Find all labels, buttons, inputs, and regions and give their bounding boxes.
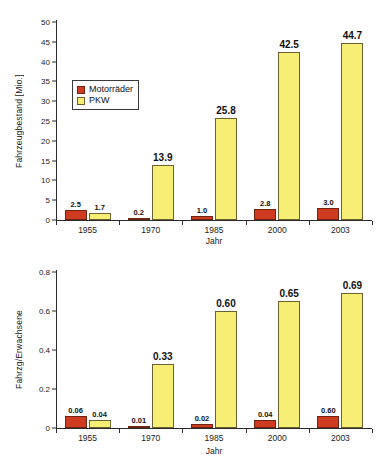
bar-pkw-1985 [215, 118, 237, 220]
bar-value-label: 0.04 [92, 410, 107, 419]
y-tick-label: 50 [22, 18, 50, 27]
y-tick-mark [52, 160, 56, 161]
plot-area-top [56, 22, 372, 220]
x-axis-line-bottom [56, 428, 372, 429]
y-tick-label: 25 [22, 117, 50, 126]
bar-value-label: 3.0 [323, 198, 333, 207]
legend-item-motorraeder: Motorräder [77, 84, 133, 95]
bar-pkw-1955 [89, 213, 111, 220]
bar-motorraeder-2003 [317, 416, 339, 428]
bar-motorraeder-2000 [254, 209, 276, 220]
bar-value-label: 0.04 [258, 410, 273, 419]
bar-value-label: 0.33 [153, 351, 172, 362]
bar-value-label: 0.02 [195, 414, 210, 423]
bar-pkw-2003 [341, 293, 363, 428]
y-tick-label: 35 [22, 77, 50, 86]
y-tick-label: 0.6 [22, 307, 50, 316]
chart-legend: Motorräder PKW [72, 80, 139, 110]
bar-pkw-1955 [89, 420, 111, 428]
y-tick-mark [52, 350, 56, 351]
bar-pkw-1970 [152, 165, 174, 220]
bar-value-label: 13.9 [153, 152, 172, 163]
x-tick-mark [372, 429, 373, 433]
y-tick-mark [52, 121, 56, 122]
x-tick-mark [182, 221, 183, 225]
bar-value-label: 0.06 [68, 406, 83, 415]
bar-value-label: 0.60 [216, 298, 235, 309]
bar-motorraeder-1955 [65, 210, 87, 220]
y-tick-label: 0.4 [22, 346, 50, 355]
bar-pkw-1970 [152, 364, 174, 428]
chart-page: Fahrzeugbestand [Mio.] Motorräder PKW Ja… [0, 0, 390, 472]
legend-item-pkw: PKW [77, 95, 133, 106]
x-tick-mark [56, 221, 57, 225]
bar-motorraeder-1970 [128, 426, 150, 428]
x-tick-label: 2000 [268, 225, 287, 235]
y-tick-mark [52, 61, 56, 62]
x-tick-mark [246, 429, 247, 433]
x-tick-mark [56, 429, 57, 433]
bar-motorraeder-1955 [65, 416, 87, 428]
y-tick-label: 0 [22, 424, 50, 433]
x-tick-mark [372, 221, 373, 225]
x-tick-mark [246, 221, 247, 225]
y-tick-mark [52, 200, 56, 201]
y-tick-label: 10 [22, 176, 50, 185]
bar-value-label: 1.0 [197, 206, 207, 215]
bar-motorraeder-1985 [191, 424, 213, 428]
x-tick-label: 1985 [205, 225, 224, 235]
plot-area-bottom [56, 272, 372, 428]
y-tick-mark [52, 81, 56, 82]
bar-value-label: 44.7 [343, 30, 362, 41]
y-tick-label: 20 [22, 136, 50, 145]
x-tick-label: 1955 [78, 225, 97, 235]
y-tick-label: 5 [22, 196, 50, 205]
bar-motorraeder-2003 [317, 208, 339, 220]
bar-value-label: 0.60 [321, 406, 336, 415]
legend-swatch-motorraeder [77, 86, 85, 94]
bar-value-label: 0.69 [343, 280, 362, 291]
y-tick-mark [52, 180, 56, 181]
bar-value-label: 0.01 [131, 416, 146, 425]
bar-value-label: 2.8 [260, 199, 270, 208]
legend-swatch-pkw [77, 97, 85, 105]
y-tick-label: 0.2 [22, 385, 50, 394]
y-tick-mark [52, 272, 56, 273]
x-tick-label: 2003 [331, 433, 350, 443]
x-tick-mark [119, 429, 120, 433]
x-tick-label: 2000 [268, 433, 287, 443]
bar-value-label: 1.7 [94, 203, 104, 212]
bar-value-label: 0.65 [279, 288, 298, 299]
y-tick-mark [52, 140, 56, 141]
y-tick-mark [52, 41, 56, 42]
bar-motorraeder-2000 [254, 420, 276, 428]
y-tick-label: 0.8 [22, 268, 50, 277]
x-tick-mark [309, 429, 310, 433]
bar-value-label: 0.2 [134, 208, 144, 217]
bar-pkw-2000 [278, 301, 300, 428]
x-tick-label: 1970 [141, 225, 160, 235]
bar-value-label: 42.5 [279, 39, 298, 50]
y-tick-label: 40 [22, 57, 50, 66]
y-tick-mark [52, 22, 56, 23]
x-tick-label: 1985 [205, 433, 224, 443]
x-tick-mark [309, 221, 310, 225]
x-tick-mark [182, 429, 183, 433]
chart-fahrzeugbestand: Fahrzeugbestand [Mio.] Motorräder PKW Ja… [0, 0, 390, 250]
y-tick-mark [52, 311, 56, 312]
chart-fahrzeuge-pro-erwachsene: Fahrzg/Erwachsene Jahr 00.20.40.60.81955… [0, 250, 390, 472]
bar-pkw-2000 [278, 52, 300, 220]
y-tick-label: 15 [22, 156, 50, 165]
legend-label-motorraeder: Motorräder [89, 84, 133, 95]
x-axis-label-top: Jahr [206, 236, 223, 246]
x-axis-label-bottom: Jahr [206, 446, 223, 456]
x-axis-line-top [56, 220, 372, 221]
legend-label-pkw: PKW [89, 95, 110, 106]
x-tick-label: 2003 [331, 225, 350, 235]
bar-value-label: 2.5 [70, 200, 80, 209]
y-tick-mark [52, 389, 56, 390]
x-tick-label: 1955 [78, 433, 97, 443]
x-tick-label: 1970 [141, 433, 160, 443]
y-tick-label: 45 [22, 37, 50, 46]
bar-pkw-1985 [215, 311, 237, 428]
